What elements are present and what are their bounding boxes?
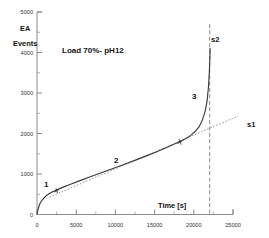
x-axis-title: Time [s] <box>158 201 187 210</box>
y-ticklabel-1000: 1000 <box>21 171 33 177</box>
x-ticklabel-10000: 10000 <box>108 222 124 228</box>
s1-label: s1 <box>247 120 256 129</box>
x-axis-tick-labels: 0 5000 10000 15000 20000 25000 <box>35 222 240 228</box>
x-ticklabel-20000: 20000 <box>186 222 202 228</box>
x-ticklabel-5000: 5000 <box>70 222 82 228</box>
chart-figure: 5000 4000 3000 2000 1000 0 0 5000 10000 <box>0 0 269 238</box>
s2-label: s2 <box>211 35 219 44</box>
y-axis-ticks <box>37 12 42 215</box>
x-axis-ticks <box>37 210 233 215</box>
axes <box>37 12 233 215</box>
x-ticklabel-25000: 25000 <box>225 222 241 228</box>
stage-label-2: 2 <box>114 156 119 165</box>
stage-label-1: 1 <box>44 180 49 189</box>
acoustic-emission-chart: 5000 4000 3000 2000 1000 0 0 5000 10000 <box>0 0 269 238</box>
y-axis-title-line1: EA <box>20 24 31 33</box>
y-ticklabel-5000: 5000 <box>21 9 33 15</box>
x-ticklabel-0: 0 <box>35 222 38 228</box>
y-ticklabel-2000: 2000 <box>21 131 33 137</box>
y-ticklabel-4000: 4000 <box>21 50 33 56</box>
ae-events-curve <box>37 48 210 215</box>
y-ticklabel-0: 0 <box>30 212 33 218</box>
y-ticklabel-3000: 3000 <box>21 90 33 96</box>
y-axis-title-line2: Events <box>13 39 37 48</box>
chart-title: Load 70%- pH12 <box>62 46 124 55</box>
stage-label-3: 3 <box>192 92 197 101</box>
x-ticklabel-15000: 15000 <box>147 222 163 228</box>
